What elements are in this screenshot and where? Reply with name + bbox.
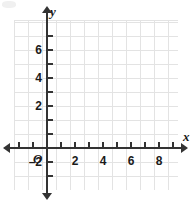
x-axis-tick xyxy=(144,142,146,148)
y-axis-tick-label: 2 xyxy=(35,100,42,112)
y-axis-tick xyxy=(46,119,53,121)
y-axis-tick xyxy=(46,35,53,37)
y-axis-down-arrow-icon xyxy=(42,193,52,200)
x-axis-tick xyxy=(102,142,104,148)
x-axis-tick-label: 2 xyxy=(72,155,79,167)
y-axis-tick-label: 6 xyxy=(35,44,42,56)
x-axis-tick xyxy=(172,142,174,148)
y-axis-tick xyxy=(46,175,53,177)
origin-label: O xyxy=(33,152,42,165)
x-axis-tick xyxy=(18,142,20,148)
scan-artifact xyxy=(2,1,16,8)
x-axis-tick xyxy=(116,142,118,148)
y-axis-tick xyxy=(46,161,53,163)
x-axis-label: x xyxy=(183,130,190,143)
x-axis-tick-label: 8 xyxy=(156,155,163,167)
x-axis-right-arrow-icon xyxy=(181,143,188,153)
y-axis-tick xyxy=(46,91,53,93)
x-axis-left-arrow-icon xyxy=(3,143,10,153)
x-axis-tick xyxy=(88,142,90,148)
y-axis-tick xyxy=(46,49,53,51)
y-axis-tick-label: 4 xyxy=(35,72,42,84)
x-axis-tick-label: 6 xyxy=(128,155,135,167)
x-axis-tick xyxy=(74,142,76,148)
coordinate-plane-figure: 2 4 6 8 6 4 2 –2 O x y xyxy=(0,0,196,204)
y-axis-label: y xyxy=(50,5,56,18)
x-axis-tick xyxy=(60,142,62,148)
y-axis-tick xyxy=(46,77,53,79)
y-axis-tick xyxy=(46,63,53,65)
y-axis-tick xyxy=(46,133,53,135)
x-axis-tick xyxy=(158,142,160,148)
y-axis-tick xyxy=(46,105,53,107)
x-axis-tick-label: 4 xyxy=(100,155,107,167)
x-axis-tick xyxy=(130,142,132,148)
y-axis-line xyxy=(46,12,48,196)
x-axis-tick xyxy=(32,142,34,148)
